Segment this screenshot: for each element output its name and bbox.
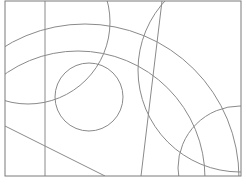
slanted-line [141,1,162,176]
shape-group [0,0,246,184]
small-circle [55,63,123,131]
frame-rectangle [5,1,241,176]
inner-large-arc [0,51,205,184]
geometric-diagram [0,0,246,184]
top-right-arc-circle [138,0,246,172]
diagonal-line [5,126,105,176]
